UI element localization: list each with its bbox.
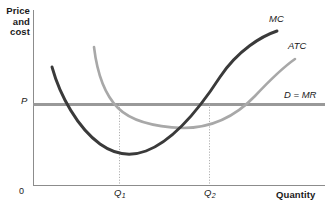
price-level-label: P bbox=[21, 96, 27, 107]
mc-curve bbox=[52, 31, 277, 154]
y-axis-title-line-3: cost bbox=[0, 27, 30, 38]
x-axis-title: Quantity bbox=[276, 190, 315, 201]
chart-plot-area bbox=[0, 0, 333, 214]
economics-cost-curve-figure: Price and cost Quantity 0 P MC ATC D = M… bbox=[0, 0, 333, 214]
demand-marginal-revenue-label: D = MR bbox=[284, 90, 316, 101]
q1-tick-label: Q1 bbox=[114, 188, 125, 199]
q2-tick-label-subscript: 2 bbox=[212, 192, 216, 199]
y-axis-title: Price and cost bbox=[0, 6, 30, 38]
mc-curve-label: MC bbox=[269, 14, 284, 25]
atc-curve-label: ATC bbox=[288, 41, 306, 52]
origin-label: 0 bbox=[19, 186, 24, 196]
atc-curve bbox=[94, 47, 295, 128]
q2-tick-label: Q2 bbox=[204, 188, 215, 199]
q1-tick-label-subscript: 1 bbox=[122, 192, 126, 199]
q1-tick-label-base: Q bbox=[114, 187, 121, 198]
q2-tick-label-base: Q bbox=[204, 187, 211, 198]
